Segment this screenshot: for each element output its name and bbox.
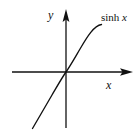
y-axis-label: y [48, 9, 53, 21]
sinh-curve [33, 25, 102, 129]
curve-label-variable: x [122, 11, 127, 23]
curve-label: sinh x [101, 12, 127, 23]
sinh-graph-figure: y x sinh x [0, 0, 138, 140]
x-axis-label: x [106, 79, 111, 91]
curve-label-function-name: sinh [101, 11, 119, 23]
